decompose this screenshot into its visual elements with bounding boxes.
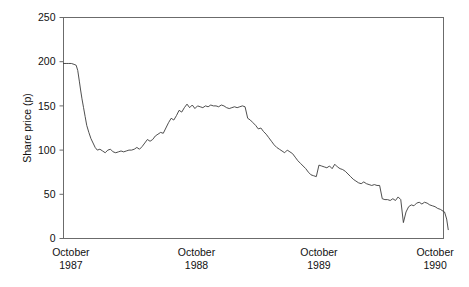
x-tick-label-year: 1990	[423, 259, 447, 271]
x-tick-label-month: October	[52, 246, 90, 258]
share-price-chart-figure: 050100150200250 October1987October1988Oc…	[0, 0, 469, 287]
x-tick-label-year: 1987	[59, 259, 83, 271]
y-axis-title: Share price (p)	[21, 93, 33, 162]
chart-background	[0, 0, 469, 287]
y-tick-label: 100	[38, 144, 56, 156]
chart-canvas: 050100150200250 October1987October1988Oc…	[0, 0, 469, 287]
y-tick-label: 200	[38, 55, 56, 67]
y-tick-label: 250	[38, 11, 56, 23]
x-tick-label-month: October	[178, 246, 216, 258]
y-tick-label: 50	[44, 188, 56, 200]
x-tick-label-year: 1988	[185, 259, 209, 271]
y-tick-label: 150	[38, 100, 56, 112]
y-tick-label: 0	[50, 232, 56, 244]
x-tick-label-month: October	[416, 246, 454, 258]
x-tick-label-year: 1989	[307, 259, 331, 271]
x-tick-label-month: October	[300, 246, 338, 258]
